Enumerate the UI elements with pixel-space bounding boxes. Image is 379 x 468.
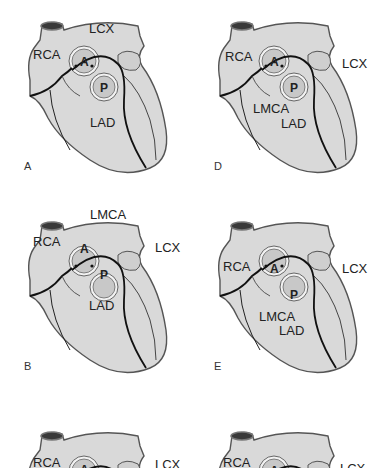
panel-a: LCX RCA LAD A P A: [0, 0, 190, 200]
label-lcx: LCX: [155, 458, 180, 468]
label-rca: RCA: [33, 48, 60, 61]
label-lcx: LCX: [340, 462, 365, 468]
label-lmca: LMCA: [90, 208, 126, 221]
pulmonary-valve-label: P: [290, 288, 298, 302]
pulmonary-valve-label: P: [290, 81, 298, 95]
pulmonary-valve-label: P: [100, 81, 108, 95]
label-lcx: LCX: [342, 262, 367, 275]
panel-c: RCA LCX A: [0, 420, 190, 468]
pulmonary-valve-label: P: [100, 268, 108, 282]
panel-b: LMCA RCA LCX LAD A P B: [0, 200, 190, 400]
label-lmca: LMCA: [253, 102, 289, 115]
label-lad: LAD: [279, 324, 304, 337]
panel-letter: A: [24, 160, 31, 172]
label-rca: RCA: [225, 50, 252, 63]
aortic-valve-label: A: [270, 55, 279, 69]
panel-letter: B: [24, 360, 31, 372]
aortic-valve-label: A: [80, 463, 89, 468]
aortic-valve-label: A: [80, 55, 89, 69]
panel-d: RCA LCX LMCA LAD A P D: [190, 0, 379, 200]
label-rca: RCA: [223, 456, 250, 468]
panel-letter: E: [214, 360, 221, 372]
label-rca: RCA: [223, 260, 250, 273]
aortic-valve-label: A: [80, 242, 89, 256]
label-lcx: LCX: [342, 57, 367, 70]
aortic-valve-label: A: [270, 262, 279, 276]
panel-f: RCA LCX A: [190, 420, 379, 468]
label-rca: RCA: [33, 235, 60, 248]
label-lad: LAD: [89, 299, 114, 312]
panel-letter: D: [214, 160, 222, 172]
label-lmca: LMCA: [259, 310, 295, 323]
aortic-valve-label: A: [270, 464, 279, 468]
label-lcx: LCX: [155, 241, 180, 254]
label-lcx: LCX: [89, 22, 114, 35]
label-lad: LAD: [90, 116, 115, 129]
label-rca: RCA: [33, 456, 60, 468]
panel-e: RCA LCX LMCA LAD A P E: [190, 200, 379, 400]
label-lad: LAD: [281, 117, 306, 130]
